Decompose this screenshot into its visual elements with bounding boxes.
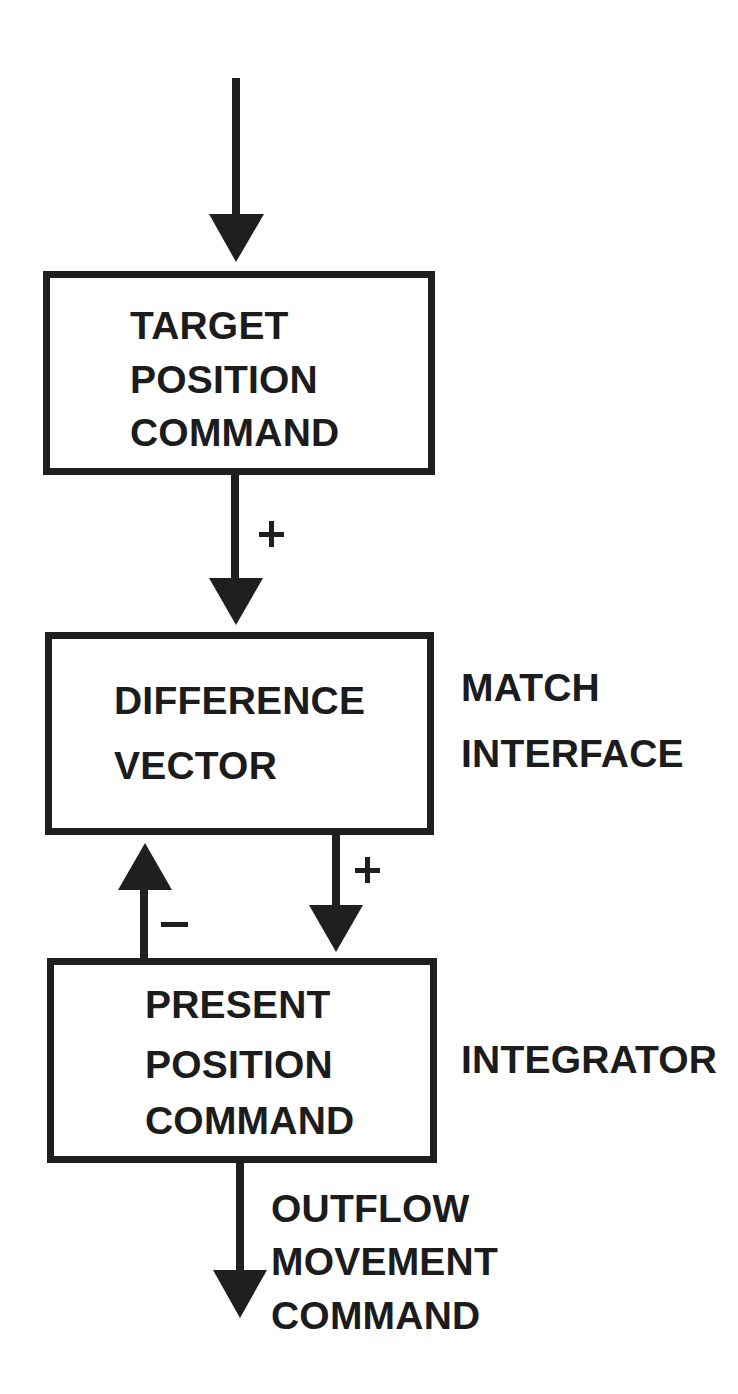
difference-vector-box <box>45 632 434 835</box>
plus-sign-vertical-icon <box>269 521 274 547</box>
target-box-line-2: POSITION <box>130 360 318 399</box>
output-label-line-3: COMMAND <box>271 1296 480 1335</box>
difference-box-line-2: VECTOR <box>114 746 277 785</box>
target-box-line-1: TARGET <box>130 306 289 345</box>
present-box-line-2: POSITION <box>145 1045 333 1084</box>
difference-box-line-1: DIFFERENCE <box>114 681 365 720</box>
input-arrow-icon <box>209 78 264 262</box>
diagram-canvas: TARGET POSITION COMMAND DIFFERENCE VECTO… <box>0 0 738 1394</box>
present-box-line-1: PRESENT <box>145 985 331 1024</box>
match-interface-label-line-1: MATCH <box>461 668 600 707</box>
output-label-line-2: MOVEMENT <box>271 1242 498 1281</box>
minus-sign-icon <box>161 922 188 927</box>
present-box-line-3: COMMAND <box>145 1101 354 1140</box>
output-label-line-1: OUTFLOW <box>271 1189 470 1228</box>
difference-to-present-arrow-icon <box>309 834 363 952</box>
feedback-arrow-up-icon <box>118 843 172 959</box>
match-interface-label-line-2: INTERFACE <box>461 734 684 773</box>
output-arrow-icon <box>213 1162 267 1318</box>
target-to-difference-arrow-icon <box>209 474 263 625</box>
target-box-line-3: COMMAND <box>130 413 339 452</box>
integrator-label: INTEGRATOR <box>461 1040 717 1079</box>
plus-sign-2-vertical-icon <box>365 857 370 883</box>
